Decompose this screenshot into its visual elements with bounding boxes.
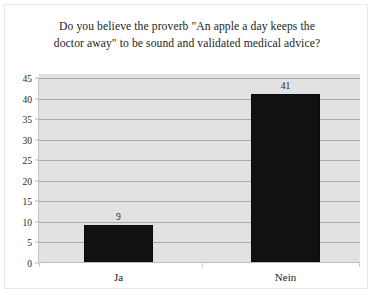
x-axis-line xyxy=(39,262,360,263)
x-tick-label-ja: Ja xyxy=(114,271,123,283)
plot-area: 9 41 xyxy=(39,74,360,262)
bar-value-ja: 9 xyxy=(116,211,121,222)
bar-nein[interactable] xyxy=(251,94,320,262)
y-tick-label-0: 0 xyxy=(27,258,32,269)
y-tick-label-40: 40 xyxy=(22,93,32,104)
x-axis: Ja Nein xyxy=(39,262,360,292)
chart-card: Do you believe the proverb "An apple a d… xyxy=(4,4,368,289)
chart-title-line-2: doctor away" to be sound and validated m… xyxy=(31,35,343,52)
y-tick-label-20: 20 xyxy=(22,175,32,186)
y-tick-label-5: 5 xyxy=(27,237,32,248)
chart-title-line-1: Do you believe the proverb "An apple a d… xyxy=(31,18,343,35)
bar-value-nein: 41 xyxy=(281,80,291,91)
y-tick-label-25: 25 xyxy=(22,155,32,166)
y-axis: 45 40 35 30 25 20 15 10 5 0 xyxy=(5,74,39,266)
x-tick-mark xyxy=(202,262,203,267)
x-tick-label-nein: Nein xyxy=(275,271,296,283)
y-tick-label-35: 35 xyxy=(22,114,32,125)
y-tick-label-45: 45 xyxy=(22,73,32,84)
gridline-45 xyxy=(39,78,360,79)
y-tick-label-15: 15 xyxy=(22,196,32,207)
bar-ja[interactable] xyxy=(84,225,153,262)
chart-title: Do you believe the proverb "An apple a d… xyxy=(31,18,343,52)
x-tick-mark xyxy=(39,262,40,267)
y-tick-label-30: 30 xyxy=(22,134,32,145)
x-tick-mark xyxy=(359,262,360,267)
y-tick-label-10: 10 xyxy=(22,216,32,227)
